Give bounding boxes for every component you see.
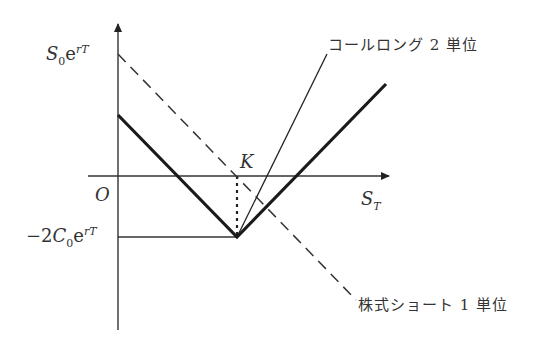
stock-short-annotation: 株式ショート 1 単位 [358, 298, 508, 313]
strike-label: K [240, 153, 253, 171]
y-label-top: S0erT [46, 44, 89, 67]
y-label-bottom: −2C0erT [26, 226, 97, 249]
x-axis-label: ST [361, 190, 381, 212]
call-long-annotation: コールロング 2 単位 [328, 38, 478, 53]
origin-label: O [95, 186, 110, 204]
stock-short-line [118, 54, 356, 300]
call-long-line [237, 54, 327, 237]
